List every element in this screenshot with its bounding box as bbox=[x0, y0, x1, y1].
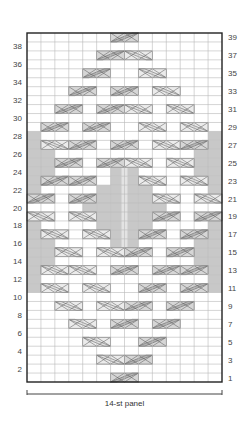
row-number-right: 17 bbox=[228, 230, 237, 239]
gray-cell bbox=[27, 185, 41, 194]
gray-cell bbox=[27, 239, 41, 248]
gray-cell bbox=[27, 248, 41, 257]
row-number-right: 39 bbox=[228, 33, 237, 42]
panel-bracket bbox=[27, 390, 222, 395]
gray-cell bbox=[208, 221, 222, 230]
row-number-left: 12 bbox=[13, 275, 22, 284]
row-number-right: 37 bbox=[228, 51, 237, 60]
gray-cell bbox=[208, 140, 222, 149]
gray-cell bbox=[27, 167, 41, 176]
gray-cell bbox=[41, 248, 55, 257]
gray-cell bbox=[27, 221, 41, 230]
gray-cell bbox=[27, 176, 41, 185]
row-number-left: 18 bbox=[13, 221, 22, 230]
row-number-right: 27 bbox=[228, 141, 237, 150]
row-number-left: 8 bbox=[18, 311, 23, 320]
gray-cell bbox=[194, 248, 208, 257]
panel-label: 14-st panel bbox=[105, 399, 145, 408]
gray-cell bbox=[27, 140, 41, 149]
gray-cell bbox=[208, 248, 222, 257]
row-numbers-left: 2468101214161820222426283032343638 bbox=[13, 42, 22, 373]
gray-cell bbox=[138, 203, 152, 212]
row-number-left: 4 bbox=[18, 347, 23, 356]
row-number-left: 2 bbox=[18, 365, 23, 374]
gray-cell bbox=[97, 212, 111, 221]
gray-cell bbox=[27, 257, 41, 266]
row-number-left: 26 bbox=[13, 150, 22, 159]
gray-cell bbox=[208, 266, 222, 275]
row-number-left: 36 bbox=[13, 60, 22, 69]
gray-cell bbox=[138, 221, 152, 230]
gray-cell bbox=[208, 257, 222, 266]
row-number-left: 16 bbox=[13, 239, 22, 248]
row-number-left: 30 bbox=[13, 114, 22, 123]
gray-cell bbox=[194, 239, 208, 248]
row-number-right: 15 bbox=[228, 248, 237, 257]
row-number-right: 13 bbox=[228, 266, 237, 275]
row-number-right: 3 bbox=[228, 356, 233, 365]
gray-cell bbox=[27, 284, 41, 293]
gray-cell bbox=[97, 203, 111, 212]
row-number-right: 19 bbox=[228, 212, 237, 221]
row-number-left: 34 bbox=[13, 78, 22, 87]
row-number-right: 1 bbox=[228, 374, 233, 383]
gray-cell bbox=[194, 257, 208, 266]
gray-cell bbox=[194, 158, 208, 167]
gray-cell bbox=[27, 158, 41, 167]
row-number-left: 32 bbox=[13, 96, 22, 105]
gray-cell bbox=[27, 266, 41, 275]
gray-cell bbox=[208, 230, 222, 239]
gray-cell bbox=[138, 212, 152, 221]
row-number-right: 21 bbox=[228, 195, 237, 204]
gray-cell bbox=[41, 149, 55, 158]
gray-cell bbox=[27, 149, 41, 158]
gray-cell bbox=[208, 284, 222, 293]
row-number-right: 33 bbox=[228, 87, 237, 96]
row-number-left: 6 bbox=[18, 329, 23, 338]
row-number-right: 11 bbox=[228, 284, 237, 293]
row-number-right: 31 bbox=[228, 105, 237, 114]
gray-cell bbox=[208, 275, 222, 284]
row-number-left: 38 bbox=[13, 42, 22, 51]
gray-cell bbox=[41, 257, 55, 266]
row-number-left: 20 bbox=[13, 204, 22, 213]
gray-cell bbox=[208, 149, 222, 158]
gray-cell bbox=[41, 167, 55, 176]
row-number-right: 35 bbox=[228, 69, 237, 78]
gray-cell bbox=[27, 230, 41, 239]
gray-cell bbox=[208, 185, 222, 194]
row-number-right: 5 bbox=[228, 338, 233, 347]
row-number-right: 7 bbox=[228, 320, 233, 329]
row-number-left: 28 bbox=[13, 132, 22, 141]
row-number-right: 23 bbox=[228, 177, 237, 186]
gray-cell bbox=[208, 176, 222, 185]
row-numbers-right: 13579111315171921232527293133353739 bbox=[228, 33, 237, 382]
row-number-right: 9 bbox=[228, 302, 233, 311]
row-number-left: 14 bbox=[13, 257, 22, 266]
gray-cell bbox=[41, 158, 55, 167]
gray-cell bbox=[83, 203, 97, 212]
gray-cell bbox=[194, 149, 208, 158]
gray-cell bbox=[97, 221, 111, 230]
row-number-left: 22 bbox=[13, 186, 22, 195]
knitting-chart: 2468101214161820222426283032343638 13579… bbox=[0, 0, 249, 429]
row-number-left: 10 bbox=[13, 293, 22, 302]
gray-cell bbox=[97, 194, 111, 203]
row-number-right: 25 bbox=[228, 159, 237, 168]
gray-cell bbox=[27, 275, 41, 284]
gray-cell bbox=[138, 194, 152, 203]
gray-cell bbox=[41, 239, 55, 248]
gray-cell bbox=[208, 158, 222, 167]
gray-cell bbox=[208, 131, 222, 140]
row-number-left: 24 bbox=[13, 168, 22, 177]
gray-cell bbox=[152, 203, 166, 212]
gray-cell bbox=[138, 185, 152, 194]
row-number-right: 29 bbox=[228, 123, 237, 132]
gray-cell bbox=[194, 167, 208, 176]
gray-cell bbox=[208, 167, 222, 176]
chart-grid bbox=[27, 33, 222, 382]
gray-cell bbox=[27, 131, 41, 140]
gray-cell bbox=[97, 185, 111, 194]
gray-cell bbox=[208, 239, 222, 248]
